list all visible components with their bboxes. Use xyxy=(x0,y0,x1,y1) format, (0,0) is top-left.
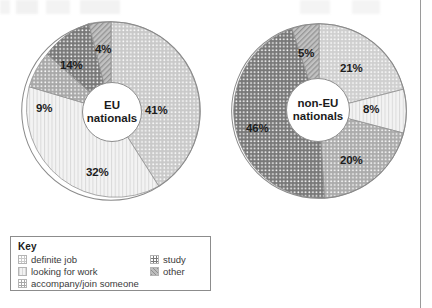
pie-value-label-non-eu-looking-work: 8% xyxy=(363,103,379,115)
pie-center-label-non-eu: non-EU nationals xyxy=(286,78,350,142)
other-swatch xyxy=(150,267,159,276)
pie-value-label-eu-definite-job: 41% xyxy=(145,104,167,116)
legend-label-study: study xyxy=(163,254,186,265)
definite-job-swatch xyxy=(18,255,27,264)
pie-chart-non-eu-nationals: non-EU nationals 21% 8% 20% 46% 5% xyxy=(228,20,410,202)
legend-label-looking-for-work: looking for work xyxy=(31,266,98,277)
pie-value-label-non-eu-accompany: 20% xyxy=(340,154,362,166)
pie-center-label-eu-line2: nationals xyxy=(87,112,137,125)
pie-center-label-non-eu-line2: nationals xyxy=(293,110,343,123)
pie-value-label-non-eu-other: 5% xyxy=(298,47,314,59)
legend-item-looking-for-work[interactable]: looking for work xyxy=(18,266,98,277)
legend-label-other: other xyxy=(163,266,185,277)
pie-value-label-eu-other: 4% xyxy=(95,43,111,55)
legend-items: definite job looking for work accompany/… xyxy=(18,254,204,290)
pie-value-label-eu-study: 14% xyxy=(60,59,82,71)
pie-chart-eu-nationals: EU nationals 41% 32% 9% 14% 4% xyxy=(18,18,204,204)
legend-item-other[interactable]: other xyxy=(150,266,185,277)
legend-title: Key xyxy=(18,241,204,252)
pie-value-label-eu-looking-work: 32% xyxy=(86,166,108,178)
legend-label-accompany-join-someone: accompany/join someone xyxy=(31,278,139,289)
legend-item-definite-job[interactable]: definite job xyxy=(18,254,77,265)
scan-artifact-band xyxy=(0,0,432,14)
study-swatch xyxy=(150,255,159,264)
looking-for-work-swatch xyxy=(18,267,27,276)
pie-center-label-eu-line1: EU xyxy=(104,99,120,112)
pie-value-label-non-eu-study: 46% xyxy=(246,122,268,134)
pie-value-label-non-eu-definite-job: 21% xyxy=(340,62,362,74)
accompany-join-someone-swatch xyxy=(18,279,27,288)
pie-value-label-eu-accompany: 9% xyxy=(36,102,52,114)
page-edge-rule xyxy=(420,0,421,308)
chart-legend: Key definite job looking for work accomp… xyxy=(10,236,211,291)
pie-center-label-non-eu-line1: non-EU xyxy=(298,97,339,110)
legend-item-study[interactable]: study xyxy=(150,254,186,265)
legend-label-definite-job: definite job xyxy=(31,254,77,265)
pie-center-label-eu: EU nationals xyxy=(82,82,142,142)
legend-item-accompany-join-someone[interactable]: accompany/join someone xyxy=(18,278,139,289)
